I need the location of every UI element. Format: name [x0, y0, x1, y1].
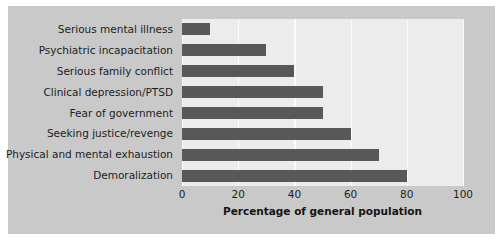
bar-row — [182, 123, 463, 144]
y-axis-tick-label: Clinical depression/PTSD — [43, 82, 173, 103]
bar-row — [182, 19, 463, 40]
x-axis-tick-labels: 020406080100 — [182, 188, 463, 204]
bar — [182, 65, 294, 77]
y-axis-labels: Serious mental illness Psychiatric incap… — [8, 19, 178, 186]
x-axis-tick-label: 40 — [288, 188, 301, 200]
bar-row — [182, 144, 463, 165]
bar — [182, 86, 323, 98]
y-axis-tick-label: Serious family conflict — [57, 61, 173, 82]
x-axis-tick-label: 80 — [400, 188, 413, 200]
bar-series — [182, 19, 463, 186]
bar — [182, 107, 323, 119]
y-axis-tick-label: Demoralization — [93, 165, 173, 186]
bar-row — [182, 40, 463, 61]
x-axis-tick-label: 20 — [232, 188, 245, 200]
x-axis-tick-label: 100 — [453, 188, 473, 200]
bar — [182, 44, 266, 56]
y-axis-tick-label: Seeking justice/revenge — [47, 123, 173, 144]
y-axis-tick-label: Physical and mental exhaustion — [6, 144, 173, 165]
y-axis-tick-label: Fear of government — [70, 103, 173, 124]
bar — [182, 170, 407, 182]
bar-row — [182, 82, 463, 103]
bar-row — [182, 103, 463, 124]
plot-area — [182, 19, 463, 186]
y-axis-tick-label: Psychiatric incapacitation — [39, 40, 173, 61]
x-axis-title: Percentage of general population — [182, 205, 463, 217]
bar-row — [182, 61, 463, 82]
chart-figure: Serious mental illness Psychiatric incap… — [8, 6, 495, 234]
bar — [182, 23, 210, 35]
bar — [182, 149, 379, 161]
bar-row — [182, 165, 463, 186]
x-axis-tick-label: 0 — [179, 188, 186, 200]
bar — [182, 128, 351, 140]
y-axis-tick-label: Serious mental illness — [58, 19, 173, 40]
x-axis-tick-label: 60 — [344, 188, 357, 200]
gridline — [463, 19, 464, 186]
